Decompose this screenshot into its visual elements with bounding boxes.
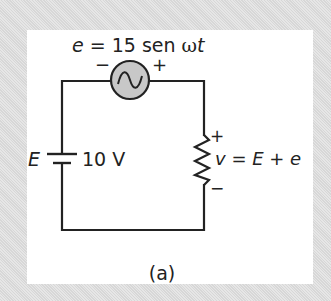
ac-source-minus: − xyxy=(95,54,110,75)
battery xyxy=(47,154,77,163)
dc-source-value: 10 V xyxy=(82,148,125,170)
res-eq: = xyxy=(226,148,253,169)
circuit-diagram: e = 15 sen ωt − + E 10 V + v = E + e − (… xyxy=(0,0,331,301)
wire-top-right xyxy=(149,81,204,135)
ac-source-equation: e = 15 sen ωt xyxy=(72,34,206,56)
wire-top-left xyxy=(62,81,111,154)
ac-equation-body: = 15 sen xyxy=(84,34,182,56)
res-plus-op: + xyxy=(264,148,291,169)
ac-omega: ω xyxy=(182,34,198,56)
res-var-e: e xyxy=(290,148,301,169)
res-var-v: v xyxy=(215,148,226,169)
resistor-voltage-label: v = E + e xyxy=(215,148,301,169)
ac-source-plus: + xyxy=(152,54,167,75)
dc-source-symbol: E xyxy=(28,148,40,170)
wire-bottom xyxy=(62,163,204,230)
ac-source xyxy=(111,61,149,99)
ac-var-e: e xyxy=(72,34,84,56)
diagram-caption: (a) xyxy=(149,262,175,284)
resistor-minus: − xyxy=(210,178,224,198)
resistor-plus: + xyxy=(210,126,224,146)
resistor xyxy=(195,135,209,185)
ac-var-t: t xyxy=(197,34,206,56)
res-var-E: E xyxy=(252,148,264,169)
